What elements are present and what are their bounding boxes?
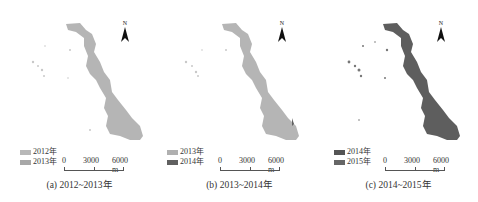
caption: (c) 2014~2015年 (319, 177, 478, 191)
legend: 2013年 2014年 (167, 147, 204, 167)
legend-swatch (20, 150, 31, 155)
legend-swatch (167, 150, 178, 155)
svg-text:N: N (439, 20, 444, 26)
legend-swatch (334, 160, 345, 165)
map-b: N (160, 0, 319, 140)
legend-item: 2013年 (167, 147, 204, 157)
svg-text:N: N (123, 20, 128, 26)
legend-swatch (167, 160, 178, 165)
caption: (a) 2012~2013年 (0, 177, 159, 191)
north-arrow-icon: N (278, 20, 286, 42)
legend: 2014年 2015年 (334, 147, 371, 167)
map-c: N (319, 0, 478, 140)
legend-swatch (20, 160, 31, 165)
legend-item: 2013年 (20, 157, 57, 167)
legend-item: 2012年 (20, 147, 57, 157)
panel-c: N 2014年 2015年 0 3000 6000 m (c) 2014~201… (319, 0, 478, 202)
legend-item: 2014年 (334, 147, 371, 157)
legend-swatch (334, 150, 345, 155)
north-arrow-icon: N (437, 20, 445, 42)
scale-bar: 0 3000 6000 m (220, 156, 290, 166)
svg-text:N: N (280, 20, 285, 26)
map-a: N (0, 0, 159, 140)
legend-item: 2014年 (167, 157, 204, 167)
legend: 2012年 2013年 (20, 147, 57, 167)
legend-item: 2015年 (334, 157, 371, 167)
panel-a: N 2012年 2013年 0 3000 6000 m (a) 2012~201… (0, 0, 159, 202)
scale-bar: 0 3000 6000 m (385, 156, 455, 166)
north-arrow-icon: N (121, 20, 129, 42)
caption: (b) 2013~2014年 (160, 177, 319, 191)
scale-bar: 0 3000 6000 m (64, 156, 134, 166)
panel-b: N 2013年 2014年 0 3000 6000 m (b) 2013~201… (160, 0, 319, 202)
